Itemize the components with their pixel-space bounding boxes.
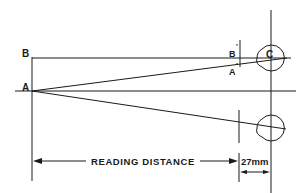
arrowhead-left xyxy=(33,158,42,164)
label-27mm: 27mm xyxy=(241,156,268,167)
sightline-upper xyxy=(32,58,287,91)
arrowhead-27mm-left xyxy=(240,170,247,174)
sightline-lower xyxy=(32,91,286,129)
label-reading-distance: READING DISTANCE xyxy=(91,156,195,167)
label-a-prime: A xyxy=(229,67,236,77)
reading-distance-diagram: B A C B ' A ' READING DISTANCE 27mm xyxy=(0,0,306,193)
label-b: B xyxy=(22,48,29,59)
arrowhead-27mm-right xyxy=(263,170,270,174)
label-b-prime-mark: ' xyxy=(236,42,238,51)
label-a: A xyxy=(22,82,29,93)
label-a-prime-mark: ' xyxy=(236,61,238,70)
arrowhead-right xyxy=(229,158,238,164)
label-c: C xyxy=(266,49,273,60)
label-b-prime: B xyxy=(229,49,236,59)
